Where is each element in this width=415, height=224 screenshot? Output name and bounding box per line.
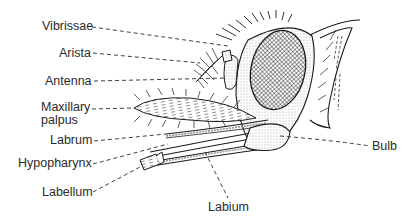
fly-mouthparts-diagram: Vibrissae Arista Antenna Maxillary palpu… (0, 0, 415, 224)
label-bulb: Bulb (372, 140, 397, 153)
label-maxillary-palpus-line2: palpus (41, 114, 78, 127)
label-antenna: Antenna (45, 75, 92, 88)
bulb (244, 124, 290, 151)
labellum-leader (93, 167, 140, 192)
label-hypopharynx: Hypopharynx (18, 157, 92, 170)
antenna-leader (94, 78, 226, 81)
label-arista: Arista (59, 47, 91, 60)
label-labium: Labium (208, 201, 249, 214)
antenna-structure (222, 50, 238, 89)
thorax-outline (308, 20, 360, 128)
labium-leader (205, 152, 228, 198)
arista-bristles (194, 48, 222, 88)
label-labrum: Labrum (50, 134, 92, 147)
maxillary-palpus-leader (92, 108, 134, 109)
vibrissae-leader (92, 27, 228, 46)
label-labellum: Labellum (42, 186, 93, 199)
labrum-leader (94, 134, 166, 141)
labellum (140, 152, 164, 170)
arista-leader (93, 53, 200, 63)
label-vibrissae: Vibrissae (42, 20, 93, 33)
bulb-leader (280, 136, 370, 146)
